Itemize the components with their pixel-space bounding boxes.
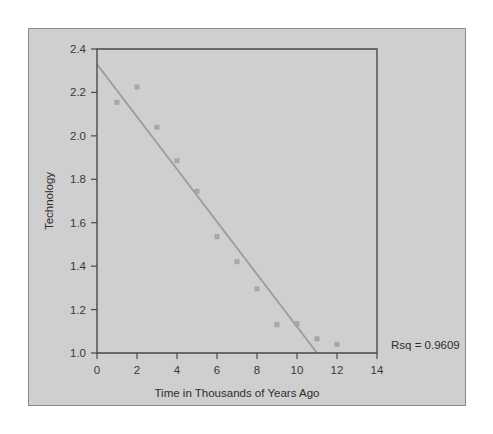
data-point-marker xyxy=(235,260,239,264)
data-points xyxy=(115,85,339,347)
y-axis-ticks: 1.01.21.41.61.82.02.22.4 xyxy=(70,43,97,359)
data-point-marker xyxy=(255,287,259,291)
axis-frame xyxy=(97,49,377,353)
y-tick-label: 1.0 xyxy=(70,347,86,359)
x-tick-label: 6 xyxy=(214,364,220,376)
data-point-marker xyxy=(155,125,159,129)
x-tick-label: 10 xyxy=(291,364,304,376)
data-point-marker xyxy=(135,85,139,89)
y-tick-label: 2.0 xyxy=(70,130,86,142)
data-point-marker xyxy=(195,189,199,193)
screenshot-root: 02468101214 1.01.21.41.61.82.02.22.4 Tim… xyxy=(0,0,493,434)
data-point-marker xyxy=(275,323,279,327)
x-tick-label: 4 xyxy=(174,364,181,376)
chart-panel: 02468101214 1.01.21.41.61.82.02.22.4 Tim… xyxy=(28,28,466,406)
y-tick-label: 1.4 xyxy=(70,260,87,272)
data-point-marker xyxy=(175,159,179,163)
data-point-marker xyxy=(295,322,299,326)
y-tick-label: 1.6 xyxy=(70,217,86,229)
scatter-plot: 02468101214 1.01.21.41.61.82.02.22.4 Tim… xyxy=(29,29,467,407)
x-axis-ticks: 02468101214 xyxy=(94,353,384,376)
y-tick-label: 1.2 xyxy=(70,304,86,316)
x-axis-title: Time in Thousands of Years Ago xyxy=(155,387,320,399)
y-axis-title: Technology xyxy=(43,172,55,230)
chart-svg: 02468101214 1.01.21.41.61.82.02.22.4 Tim… xyxy=(29,29,467,407)
x-tick-label: 8 xyxy=(254,364,260,376)
axes xyxy=(97,49,377,353)
data-point-marker xyxy=(215,235,219,239)
x-tick-label: 2 xyxy=(134,364,140,376)
data-point-marker xyxy=(335,342,339,346)
x-tick-label: 12 xyxy=(331,364,344,376)
x-tick-label: 0 xyxy=(94,364,100,376)
y-tick-label: 1.8 xyxy=(70,173,86,185)
regression-line xyxy=(97,64,317,353)
y-tick-label: 2.4 xyxy=(70,43,87,55)
x-tick-label: 14 xyxy=(371,364,384,376)
regression-fit-line xyxy=(97,64,317,353)
data-point-marker xyxy=(115,100,119,104)
data-point-marker xyxy=(315,337,319,341)
rsq-annotation: Rsq = 0.9609 xyxy=(391,339,460,351)
y-tick-label: 2.2 xyxy=(70,86,86,98)
